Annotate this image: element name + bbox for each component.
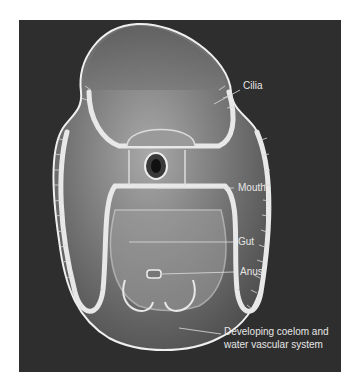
label-mouth: Mouth [238,182,266,194]
label-anus: Anus [240,266,263,278]
label-gut: Gut [238,236,254,248]
label-cilia: Cilia [243,80,262,92]
label-coelom-line1: Developing coelom and [224,326,329,338]
anus-structure [147,270,161,278]
diagram-panel: Cilia Mouth Gut Anus Developing coelom a… [19,20,341,372]
gut-structure [110,210,225,311]
larva-illustration [19,20,341,372]
label-coelom-line2: water vascular system [224,339,323,351]
